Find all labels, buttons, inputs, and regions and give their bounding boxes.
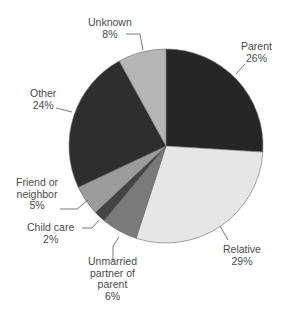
label-other-name: Other	[30, 87, 56, 99]
label-parent-name: Parent	[241, 40, 272, 52]
label-parent-pct: 26%	[241, 53, 272, 65]
label-childcare: Child care 2%	[27, 222, 74, 245]
label-relative-pct: 29%	[223, 256, 261, 268]
label-unmarried: Unmarried partner of parent 6%	[88, 256, 137, 302]
label-friend: Friend or neighbor 5%	[16, 177, 58, 212]
label-unmarried-pct: 6%	[88, 291, 137, 303]
label-unknown-pct: 8%	[88, 29, 132, 41]
pie-slice-parent	[166, 49, 263, 152]
label-unknown: Unknown 8%	[88, 17, 132, 40]
label-unmarried-line1: Unmarried	[88, 256, 137, 268]
label-other: Other 24%	[30, 88, 56, 111]
label-friend-pct: 5%	[16, 200, 58, 212]
label-other-pct: 24%	[30, 100, 56, 112]
label-childcare-pct: 2%	[27, 234, 74, 246]
leader-friend	[60, 200, 88, 209]
leader-parent	[236, 64, 245, 74]
label-relative-name: Relative	[223, 244, 261, 256]
label-parent: Parent 26%	[241, 41, 272, 64]
label-childcare-name: Child care	[27, 222, 74, 234]
leader-relative	[220, 226, 228, 240]
label-relative: Relative 29%	[223, 244, 261, 267]
leader-childcare	[82, 220, 99, 228]
leader-other	[56, 108, 72, 112]
pie-slices	[69, 49, 263, 243]
label-unknown-name: Unknown	[88, 16, 132, 28]
label-unmarried-line3: parent	[88, 279, 137, 291]
label-friend-line1: Friend or	[16, 177, 58, 189]
